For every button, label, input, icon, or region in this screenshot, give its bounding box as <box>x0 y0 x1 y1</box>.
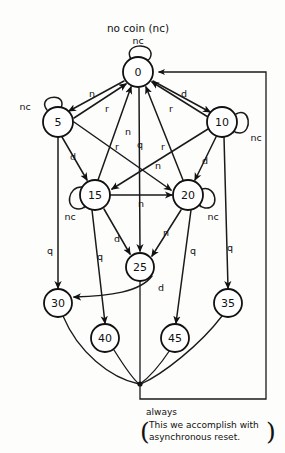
state-node-45[interactable]: 45 <box>161 324 189 352</box>
edge-0-to-5-n <box>69 81 124 111</box>
always-label: always <box>146 407 177 417</box>
edge-20-to-45-q <box>176 210 191 323</box>
edge-label-nc-state-10: nc <box>250 132 261 143</box>
note-line-2: asynchronous reset. <box>149 432 240 442</box>
state-label-5: 5 <box>55 116 62 129</box>
edge-label-25-to-30-d: d <box>158 282 164 293</box>
edge-15-to-40-q <box>92 210 105 323</box>
edge-label-20-to-25-n: n <box>163 227 169 238</box>
edge-label-nc-state-20: nc <box>207 211 218 222</box>
edge-label-20-to-35-q: q <box>227 242 233 253</box>
state-label-20: 20 <box>181 189 195 202</box>
state-node-25[interactable]: 25 <box>126 253 154 281</box>
edge-0-to-25-q <box>139 88 140 251</box>
state-label-25: 25 <box>133 261 147 274</box>
state-node-15[interactable]: 15 <box>80 180 110 210</box>
edge-label-10-to-15-n: n <box>155 160 161 171</box>
edge-15-to-25-d <box>104 209 130 254</box>
state-label-45: 45 <box>168 332 182 345</box>
state-label-10: 10 <box>215 116 229 129</box>
edge-label-nc-state-5: nc <box>19 101 30 112</box>
state-node-10[interactable]: 10 <box>207 107 237 137</box>
state-node-20[interactable]: 20 <box>173 180 203 210</box>
edge-label-5-to-20-n: n <box>125 126 131 137</box>
note-close-paren: ) <box>266 417 276 446</box>
state-node-40[interactable]: 40 <box>91 324 119 352</box>
edge-5-to-20-n <box>74 122 171 190</box>
edge-label-10-to-20-d: d <box>202 155 208 166</box>
edge-label-20-to-45-q: q <box>190 245 196 256</box>
edge-label-20-to-0-r: r <box>161 141 165 152</box>
state-label-0: 0 <box>135 66 142 79</box>
edge-label-15-to-25-d: d <box>114 233 120 244</box>
state-diagram-canvas: 0 5 10 15 20 25 30 35 <box>0 0 285 453</box>
edge-label-0-to-25-q: q <box>137 139 143 150</box>
state-label-35: 35 <box>221 297 235 310</box>
state-label-30: 30 <box>51 297 65 310</box>
state-machine-diagram: 0 5 10 15 20 25 30 35 <box>0 0 285 453</box>
edge-label-5-to-0-r: r <box>105 103 109 114</box>
edge-5-to-0-r <box>74 84 126 118</box>
note-line-1: This we accomplish with <box>148 420 259 430</box>
edge-label-nc-state-15: nc <box>64 211 75 222</box>
edge-label-15-to-0-r: r <box>115 141 119 152</box>
edge-label-15-to-20-n: n <box>138 198 144 209</box>
edge-20-to-35-q <box>224 137 228 288</box>
edge-label-5-to-15-d: d <box>70 151 76 162</box>
edge-label-nc-state-0: nc <box>132 35 143 46</box>
edge-label-10-to-0-r: r <box>169 103 173 114</box>
state-node-35[interactable]: 35 <box>214 289 242 317</box>
edge-20-to-0-r <box>146 87 183 180</box>
state-label-15: 15 <box>88 189 102 202</box>
no-coin-title: no coin (nc) <box>107 22 169 34</box>
state-node-0[interactable]: 0 <box>123 57 153 87</box>
edge-label-15-to-40-q: q <box>97 251 103 262</box>
state-node-30[interactable]: 30 <box>44 289 72 317</box>
state-node-5[interactable]: 5 <box>43 107 73 137</box>
edge-label-5-to-30-q: q <box>47 245 53 256</box>
state-label-40: 40 <box>98 332 112 345</box>
edge-label-0-to-10-d: d <box>181 88 187 99</box>
edge-label-0-to-5-n: n <box>89 88 95 99</box>
